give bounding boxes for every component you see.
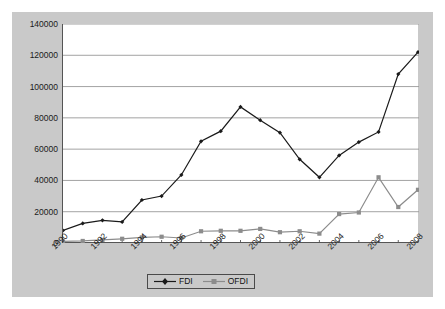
y-tick-label: 40000 (12, 176, 58, 185)
plot-area (62, 24, 418, 243)
y-axis-labels: 140000120000100000800006000040000200000 (12, 24, 58, 243)
y-tick-label: 140000 (12, 20, 58, 29)
y-tick-label: 80000 (12, 114, 58, 123)
plot-svg (63, 24, 419, 243)
chart-legend: FDI OFDI (147, 274, 255, 289)
legend-entry-ofdi: OFDI (203, 277, 248, 286)
y-tick-label: 20000 (12, 208, 58, 217)
y-tick-label: 100000 (12, 83, 58, 92)
y-tick-label: 120000 (12, 51, 58, 60)
square-marker-icon (203, 277, 225, 286)
legend-label-ofdi: OFDI (228, 277, 248, 286)
y-tick-label: 60000 (12, 145, 58, 154)
diamond-marker-icon (154, 277, 176, 286)
legend-label-fdi: FDI (179, 277, 193, 286)
chart-frame: 140000120000100000800006000040000200000 … (12, 12, 433, 297)
legend-entry-fdi: FDI (154, 277, 193, 286)
